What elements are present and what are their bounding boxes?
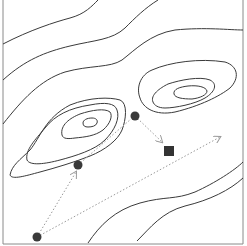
- path-points: [33, 112, 140, 242]
- path-arrow-step-3: [135, 116, 162, 142]
- contour-line: [174, 86, 207, 99]
- contour-line: [3, 0, 158, 80]
- optimization-path: [37, 116, 220, 237]
- path-arrow-step-1: [37, 172, 76, 237]
- contour-line: [10, 98, 126, 177]
- target-square: [164, 146, 174, 156]
- contour-line: [83, 118, 97, 127]
- contour-line: [27, 103, 118, 163]
- contour-line: [137, 178, 243, 241]
- contour-diagram: [0, 0, 247, 246]
- path-arrow-step-2: [78, 119, 131, 165]
- path-arrow-direct: [37, 137, 220, 237]
- contour-line: [3, 29, 243, 124]
- contour-lines: [3, 0, 243, 243]
- start-point: [33, 233, 42, 242]
- contour-line: [62, 110, 111, 139]
- contour-line: [152, 78, 214, 108]
- right-basin-contours: [139, 60, 237, 113]
- plot-frame: [3, 0, 243, 244]
- step-2-point: [131, 112, 140, 121]
- contour-line: [88, 162, 243, 243]
- contour-line: [3, 0, 98, 44]
- left-basin-contours: [10, 98, 126, 177]
- step-1-point: [74, 161, 83, 170]
